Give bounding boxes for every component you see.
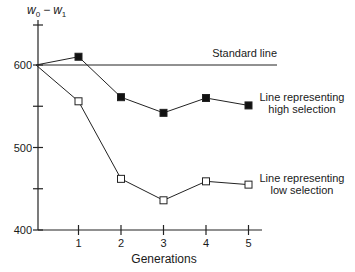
- x-tick-label: 3: [160, 237, 166, 249]
- x-tick-labels: 12345: [75, 237, 251, 249]
- open-square-marker: [203, 178, 210, 185]
- high-selection-markers: [75, 53, 252, 116]
- filled-square-marker: [245, 102, 252, 109]
- svg-text:low selection: low selection: [271, 184, 334, 196]
- filled-square-marker: [75, 53, 82, 60]
- filled-square-marker: [160, 109, 167, 116]
- y-tick-label: 400: [14, 224, 32, 236]
- y-tick-label: 500: [14, 142, 32, 154]
- open-square-marker: [118, 175, 125, 182]
- y-tick-label: 600: [14, 59, 32, 71]
- y-axis-label: w0−w1: [27, 3, 67, 19]
- low-selection-line: [36, 65, 249, 200]
- open-square-marker: [245, 181, 252, 188]
- x-axis-label: Generations: [131, 252, 196, 266]
- svg-text:Line representing: Line representing: [259, 91, 344, 103]
- line-chart: w0−w1 400500600 12345 Generations Standa…: [0, 0, 355, 272]
- x-tick-label: 4: [203, 237, 209, 249]
- svg-text:Line representing: Line representing: [259, 172, 344, 184]
- x-tick-label: 1: [75, 237, 81, 249]
- high-selection-annotation: Line representing high selection: [259, 91, 344, 115]
- standard-line-label: Standard line: [212, 47, 277, 59]
- low-selection-annotation: Line representing low selection: [259, 172, 344, 196]
- svg-text:high selection: high selection: [268, 103, 335, 115]
- open-square-marker: [160, 197, 167, 204]
- y-tick-labels: 400500600: [14, 59, 32, 236]
- x-tick-label: 5: [245, 237, 251, 249]
- filled-square-marker: [203, 95, 210, 102]
- filled-square-marker: [118, 94, 125, 101]
- open-square-marker: [75, 98, 82, 105]
- x-tick-label: 2: [118, 237, 124, 249]
